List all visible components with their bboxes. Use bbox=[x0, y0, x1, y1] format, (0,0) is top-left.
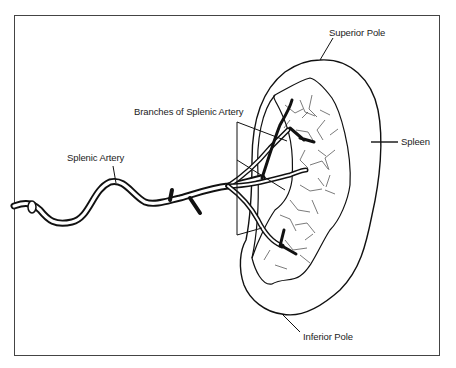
side-branch-2 bbox=[190, 198, 200, 213]
artery-cut-end bbox=[28, 201, 36, 213]
label-superior-pole: Superior Pole bbox=[329, 27, 385, 38]
label-spleen: Spleen bbox=[401, 136, 430, 147]
leader-inferior-pole bbox=[282, 314, 300, 332]
spleen-diagram bbox=[0, 0, 456, 368]
spleen-outer-capsule bbox=[240, 60, 381, 315]
leader-superior-pole bbox=[320, 38, 333, 60]
side-branch-1 bbox=[170, 190, 172, 200]
label-inferior-pole: Inferior Pole bbox=[303, 331, 353, 342]
label-splenic-artery: Splenic Artery bbox=[67, 152, 124, 163]
label-branches-of-splenic-artery: Branches of Splenic Artery bbox=[134, 106, 243, 117]
splenic-artery-outer bbox=[14, 178, 262, 223]
